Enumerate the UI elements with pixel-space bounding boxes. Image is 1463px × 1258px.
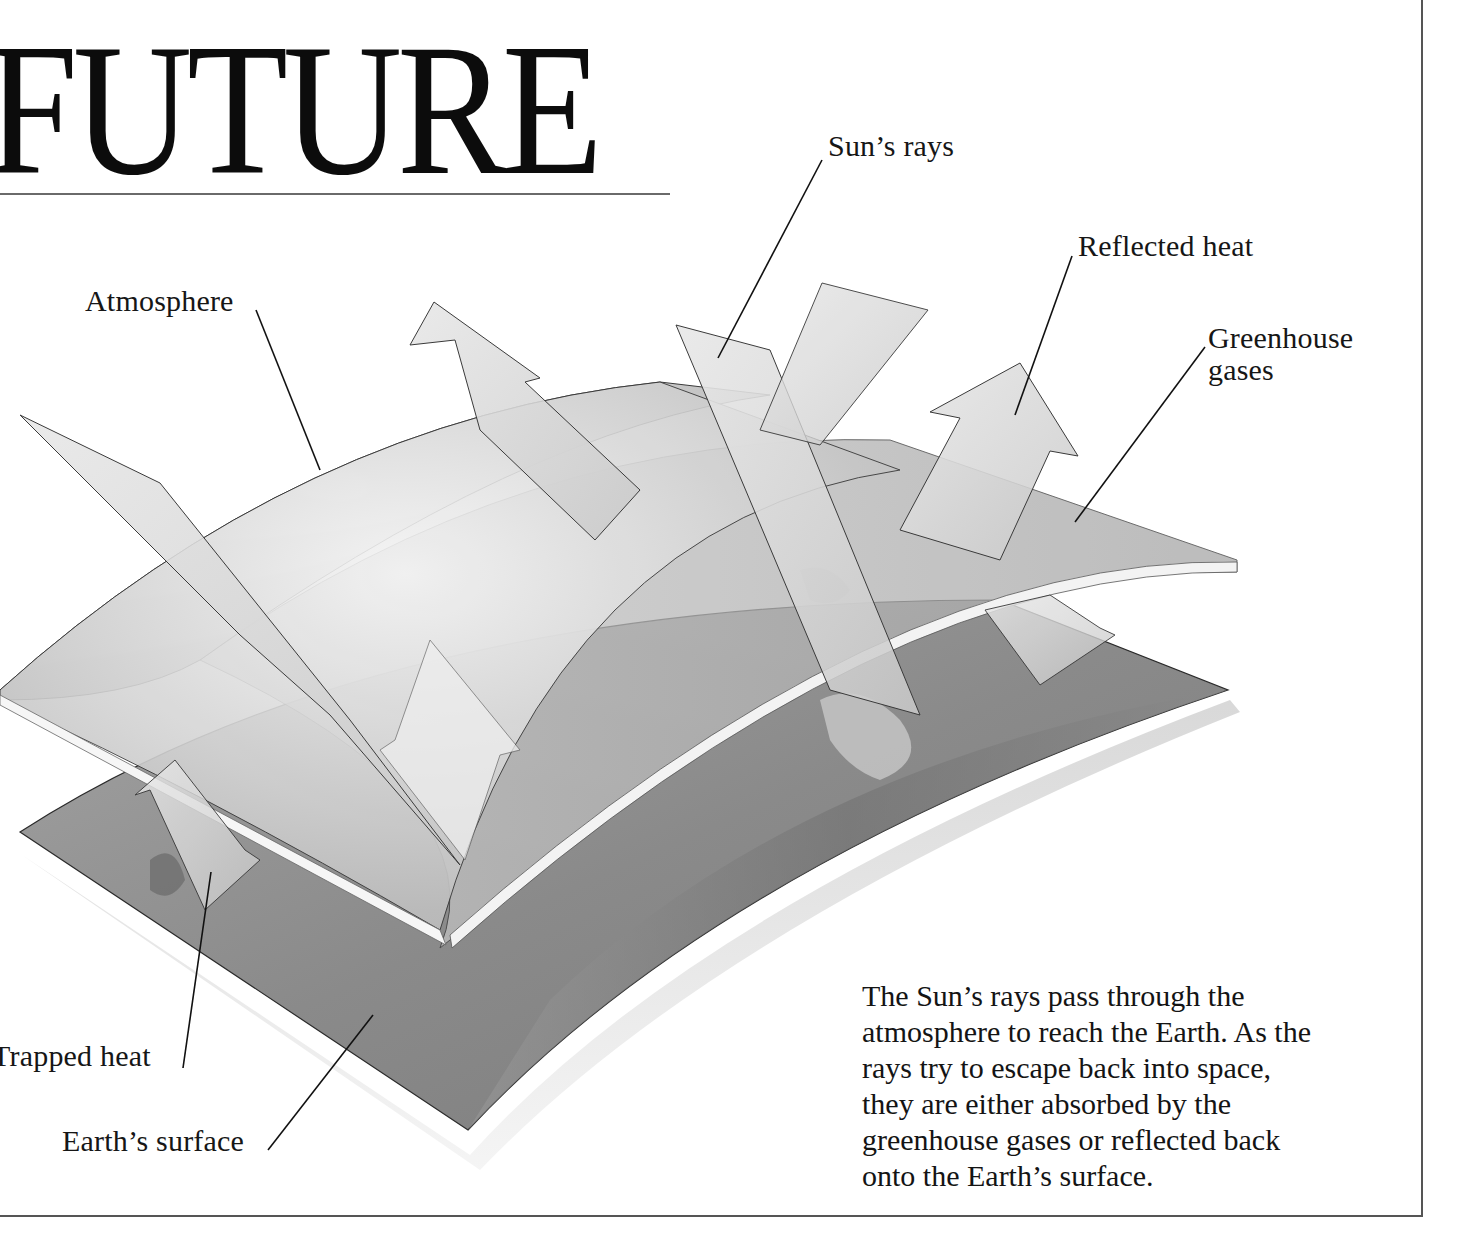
label-greenhouse-gases: Greenhouse gases <box>1208 322 1353 386</box>
label-trapped-heat: Trapped heat <box>0 1040 151 1072</box>
caption-line: greenhouse gases or reflected back <box>862 1122 1422 1158</box>
diagram-caption: The Sun’s rays pass through the atmosphe… <box>862 978 1422 1194</box>
label-greenhouse-gases-line2: gases <box>1208 354 1353 386</box>
leader-greenhouse-gases <box>1075 347 1205 522</box>
frame-border-bottom <box>0 1215 1423 1217</box>
caption-line: The Sun’s rays pass through the <box>862 978 1422 1014</box>
sun-rays-arrow-back <box>760 283 928 445</box>
label-earths-surface: Earth’s surface <box>62 1125 244 1157</box>
label-greenhouse-gases-line1: Greenhouse <box>1208 322 1353 354</box>
leader-reflected-heat <box>1015 256 1072 415</box>
caption-line: onto the Earth’s surface. <box>862 1158 1422 1194</box>
caption-line: they are either absorbed by the <box>862 1086 1422 1122</box>
caption-line: rays try to escape back into space, <box>862 1050 1422 1086</box>
caption-line: atmosphere to reach the Earth. As the <box>862 1014 1422 1050</box>
label-reflected-heat: Reflected heat <box>1078 230 1253 262</box>
leader-atmosphere <box>256 310 320 470</box>
label-sun-rays: Sun’s rays <box>828 130 954 162</box>
label-atmosphere: Atmosphere <box>85 285 234 317</box>
frame-border-right <box>1421 0 1423 1216</box>
